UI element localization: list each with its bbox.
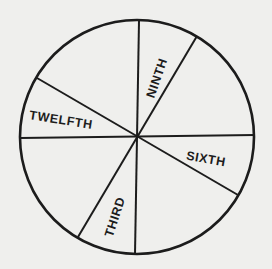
label-twelfth: TWELFTH xyxy=(28,108,93,132)
label-sixth: SIXTH xyxy=(185,149,227,170)
sector-labels: NINTH TWELFTH SIXTH THIRD xyxy=(28,56,226,239)
label-third: THIRD xyxy=(102,195,128,239)
sector-circle-diagram: NINTH TWELFTH SIXTH THIRD xyxy=(0,0,272,269)
label-ninth: NINTH xyxy=(144,56,171,100)
diagram-canvas: NINTH TWELFTH SIXTH THIRD xyxy=(0,0,272,269)
